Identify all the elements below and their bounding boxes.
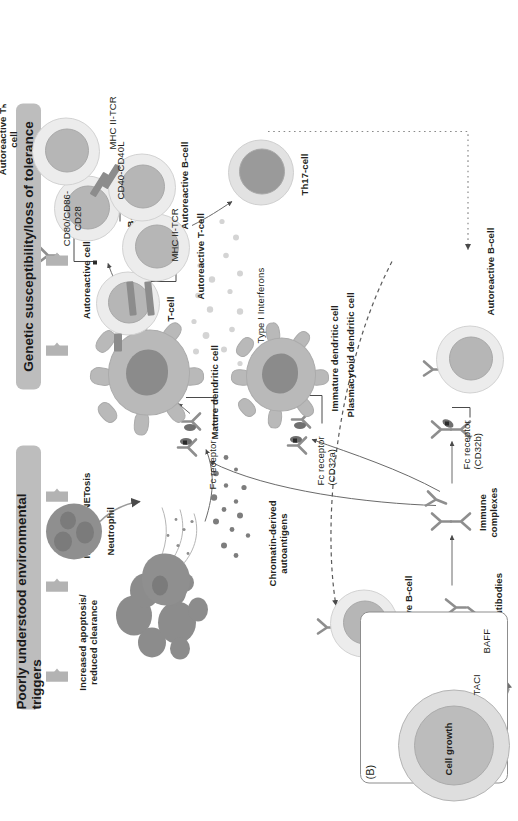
label-cell-growth: Cell growth <box>444 722 455 775</box>
label-mature-dendritic-cell: Mature dendritic cell <box>210 345 221 439</box>
label-t-cell: T-cell <box>166 296 177 321</box>
neutrophil-cell <box>46 503 102 559</box>
label-taci: TACI <box>472 674 483 695</box>
label-plasmacytoid-dendritic-cell: Plasmacytoid dendritic cell <box>346 292 357 417</box>
label-immature-dendritic-cell: Immature dendritic cell <box>330 305 341 411</box>
banner-environmental-label: Poorly understood environmental triggers <box>14 445 44 709</box>
netotic-neutrophil <box>142 553 190 605</box>
label-cd80-cd86-cd28: CD80/CD86- CD28 <box>62 185 83 251</box>
label-autoreactive-b-cell-bottom: Autoreactive B-cell <box>486 227 497 315</box>
immature-dendritic-cell <box>236 327 324 423</box>
label-mhc-ii-tcr-b: MHC II-TCR <box>108 96 119 149</box>
label-th17-cell: Th17-cell <box>300 153 311 195</box>
chevron-gen-1 <box>46 342 68 355</box>
label-mhc-ii-tcr-dc: MHC II-TCR <box>170 208 181 261</box>
label-cd40-cd40l: CD40-CD40L <box>116 141 127 199</box>
label-fc-receptor-cd32a: Fc receptor (CD32a) <box>316 436 337 485</box>
label-increased-apoptosis: Increased apoptosis/ reduced clearance <box>78 587 99 697</box>
chevron-gen-2 <box>46 252 68 265</box>
label-neutrophil: Neutrophil <box>106 507 117 556</box>
label-fc-receptor: Fc receptor <box>208 440 219 489</box>
diagram-stage: Poorly understood environmental triggers… <box>0 0 518 821</box>
chevron-env-2 <box>46 578 68 591</box>
autoreactive-th-cell <box>32 117 100 185</box>
panel-label-b: (B) <box>364 764 376 779</box>
chevron-env-3 <box>46 488 68 501</box>
label-fc-receptor-cd32b: Fc receptor (CD32b) <box>462 420 483 469</box>
chevron-env-1 <box>46 668 68 681</box>
label-autoreactive-th-cell: Autoreactive Tₕ cell <box>0 93 19 185</box>
label-autoreactive-t-cell: Autoreactive T-cell <box>196 213 207 299</box>
label-type-i-interferons: Type I Interferons <box>256 267 267 343</box>
label-chromatin-derived-autoantigens: Chromatin-derived autoantigens <box>268 495 289 591</box>
figure-frame: Poorly understood environmental triggers… <box>0 0 518 821</box>
autoreactive-b-cell-bottom <box>436 325 504 393</box>
label-baff: BAFF <box>482 628 493 653</box>
th17-cell <box>228 139 294 205</box>
label-immune-complexes: Immune complexes <box>478 481 499 543</box>
mature-dendritic-cell <box>96 317 200 429</box>
t-cell-receptor <box>114 333 122 351</box>
label-autoreactive-b-cell-top: Autoreactive B-cell <box>180 141 191 229</box>
banner-environmental: Poorly understood environmental triggers <box>16 445 41 709</box>
